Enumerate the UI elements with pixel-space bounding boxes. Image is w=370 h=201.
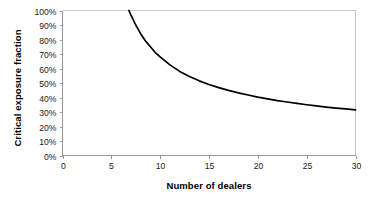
chart-figure: Critical exposure fraction Number of dea… [0, 0, 370, 201]
x-tick-label: 15 [205, 161, 215, 171]
y-tick-label: 50% [39, 79, 57, 89]
y-tick-label: 20% [39, 123, 57, 133]
x-tick-labels: 051015202530 [61, 161, 361, 171]
y-tick-label: 100% [35, 7, 57, 17]
x-tick-label: 30 [352, 161, 362, 171]
y-tick-labels: 0%10%20%30%40%50%60%70%80%90%100% [35, 7, 57, 162]
x-tick-label: 0 [61, 161, 66, 171]
y-tick-label: 40% [39, 94, 57, 104]
y-tick-label: 60% [39, 65, 57, 75]
y-tick-label: 70% [39, 50, 57, 60]
x-tick-label: 5 [109, 161, 114, 171]
y-tick-label: 0% [44, 152, 57, 162]
axis-lines [63, 11, 356, 156]
plot-frame [63, 11, 356, 156]
y-tick-label: 30% [39, 108, 57, 118]
plot-area: 0%10%20%30%40%50%60%70%80%90%100% 051015… [0, 0, 370, 201]
y-tick-label: 90% [39, 21, 57, 31]
y-tick-label: 80% [39, 36, 57, 46]
x-tick-label: 20 [254, 161, 264, 171]
data-series-line [129, 11, 356, 110]
x-tick-label: 10 [156, 161, 166, 171]
x-tick-label: 25 [303, 161, 313, 171]
y-tick-label: 10% [39, 137, 57, 147]
